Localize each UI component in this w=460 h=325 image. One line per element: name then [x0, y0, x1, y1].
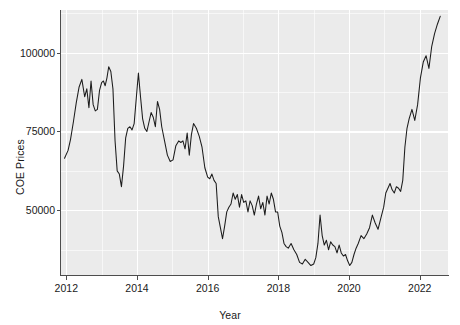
x-tick-mark	[66, 276, 67, 280]
y-tick-mark	[57, 131, 61, 132]
x-axis-line	[60, 275, 449, 276]
y-tick-mark	[57, 53, 61, 54]
y-axis-tick-labels: 5000075000100000	[0, 0, 55, 325]
x-axis-title: Year	[0, 309, 460, 321]
chart-container: 5000075000100000 20122014201620182020202…	[0, 0, 460, 325]
y-tick-label: 75000	[26, 125, 55, 137]
x-tick-mark	[420, 276, 421, 280]
x-tick-mark	[137, 276, 138, 280]
x-tick-label: 2022	[408, 282, 431, 294]
coe-prices-line	[65, 16, 441, 265]
x-axis-tick-labels: 201220142016201820202022	[0, 278, 460, 298]
y-axis-title: COE Prices	[14, 139, 26, 195]
y-tick-label: 100000	[20, 47, 55, 59]
x-tick-label: 2016	[196, 282, 219, 294]
y-axis-line	[60, 10, 61, 276]
x-tick-label: 2020	[337, 282, 360, 294]
x-tick-mark	[349, 276, 350, 280]
y-tick-mark	[57, 210, 61, 211]
plot-panel	[61, 10, 448, 275]
x-tick-label: 2012	[55, 282, 78, 294]
x-tick-mark	[278, 276, 279, 280]
x-tick-mark	[208, 276, 209, 280]
x-tick-label: 2018	[267, 282, 290, 294]
y-tick-label: 50000	[26, 204, 55, 216]
x-tick-label: 2014	[125, 282, 148, 294]
data-series-line	[61, 10, 448, 275]
